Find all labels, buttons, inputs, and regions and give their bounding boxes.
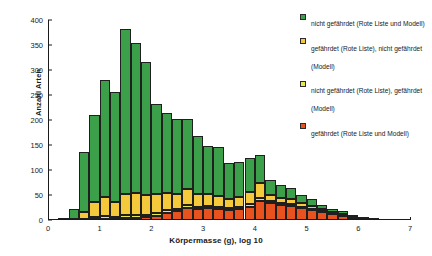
bar-segment (162, 113, 172, 193)
x-tick-mark (203, 217, 204, 221)
y-tick-mark (48, 145, 52, 146)
bar-segment (162, 193, 172, 210)
histogram-bar (141, 62, 151, 220)
y-tick-label: 200 (0, 116, 48, 125)
x-tick-label: 0 (46, 220, 50, 233)
bar-segment (100, 80, 110, 198)
histogram-bar (203, 146, 213, 220)
legend-color-swatch (300, 123, 306, 129)
histogram-bar (265, 180, 275, 220)
x-tick-mark (255, 217, 256, 221)
bar-segment (265, 180, 275, 195)
x-tick-mark (151, 217, 152, 221)
bar-segment (286, 204, 296, 206)
bar-segment (141, 62, 151, 195)
bar-segment (307, 199, 317, 206)
bar-segment (234, 207, 244, 210)
legend-item-label: nicht gefährdet (Rote Liste), gefährdet … (311, 87, 422, 112)
bar-segment (172, 209, 182, 212)
bar-segment (203, 194, 213, 206)
bar-segment (182, 119, 192, 189)
y-tick-mark (48, 120, 52, 121)
histogram-bar (296, 195, 306, 221)
legend-item: nicht gefährdet (Rote Liste und Modell) (300, 12, 430, 30)
bar-segment (203, 206, 213, 209)
bar-segment (203, 146, 213, 194)
bar-segment (224, 163, 234, 199)
bar-segment (265, 203, 275, 220)
bar-segment (348, 215, 358, 217)
bar-segment (182, 205, 192, 208)
histogram-bar (307, 199, 317, 221)
y-tick-mark (48, 170, 52, 171)
bar-segment (276, 185, 286, 198)
y-tick-label: 150 (0, 141, 48, 150)
bar-segment (79, 212, 89, 219)
y-tick-label: 250 (0, 91, 48, 100)
bar-segment (255, 198, 265, 202)
bar-segment (255, 155, 265, 183)
histogram-bar (317, 205, 327, 221)
histogram-bar (213, 147, 223, 221)
bar-segment (141, 215, 151, 218)
legend-item-label: gefährdet (Rote Liste und Modell) (311, 130, 409, 137)
bar-segment (234, 162, 244, 197)
histogram-bar (131, 43, 141, 221)
bar-segment (245, 158, 255, 192)
y-tick-label: 350 (0, 41, 48, 50)
histogram-bar (79, 152, 89, 221)
bar-segment (265, 195, 275, 201)
legend-color-swatch (300, 38, 306, 44)
y-tick-label: 300 (0, 66, 48, 75)
legend-color-swatch (300, 81, 306, 87)
bar-segment (141, 195, 151, 215)
bar-segment (182, 189, 192, 205)
bar-segment (193, 207, 203, 210)
y-tick-mark (48, 195, 52, 196)
histogram-bar (162, 113, 172, 220)
bar-segment (100, 197, 110, 216)
legend-item: gefährdet (Rote Liste und Modell) (300, 122, 430, 140)
x-axis-title: Körpermasse (g), log 10 (0, 236, 432, 245)
bar-segment (131, 215, 141, 218)
histogram-bar (89, 115, 99, 221)
histogram-bar (110, 92, 120, 221)
bar-segment (120, 29, 130, 194)
histogram-bar (151, 104, 161, 220)
histogram-bar (120, 29, 130, 220)
histogram-bar (182, 119, 192, 220)
x-tick-label: 3 (201, 220, 205, 233)
bar-segment (131, 43, 141, 193)
bar-segment (234, 197, 244, 207)
bar-segment (172, 194, 182, 209)
bar-segment (327, 209, 337, 212)
bar-segment (317, 209, 327, 211)
x-tick-mark (100, 217, 101, 221)
bar-segment (213, 207, 223, 210)
bar-segment (151, 194, 161, 213)
histogram-bar (276, 185, 286, 220)
bar-segment (224, 199, 234, 208)
bar-segment (296, 203, 306, 207)
bar-segment (317, 205, 327, 210)
y-tick-label: 50 (0, 191, 48, 200)
bar-segment (213, 196, 223, 207)
bar-segment (151, 104, 161, 194)
legend-item: nicht gefährdet (Rote Liste), gefährdet … (300, 79, 430, 115)
bar-segment (79, 152, 89, 212)
bar-segment (89, 115, 99, 203)
legend-item: gefährdet (Rote Liste), nicht gefährdet … (300, 37, 430, 73)
bar-segment (110, 92, 120, 202)
x-tick-label: 4 (253, 220, 257, 233)
histogram-bar (193, 136, 203, 220)
y-tick-label: 100 (0, 166, 48, 175)
x-tick-label: 6 (356, 220, 360, 233)
legend-item-label: nicht gefährdet (Rote Liste und Modell) (311, 20, 425, 27)
legend-item-label: gefährdet (Rote Liste), nicht gefährdet … (311, 45, 422, 70)
bar-segment (245, 204, 255, 207)
y-tick-label: 400 (0, 16, 48, 25)
bar-segment (307, 206, 317, 209)
bar-segment (172, 119, 182, 194)
bar-segment (276, 203, 286, 205)
y-tick-mark (48, 45, 52, 46)
